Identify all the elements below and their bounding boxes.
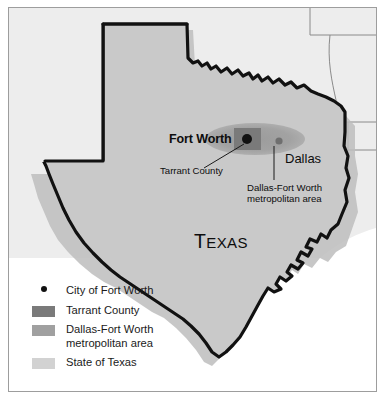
- panhandle-west-neighbor: [9, 8, 103, 162]
- dfw-metro-annotation-line2: metropolitan area: [247, 193, 322, 204]
- dallas-city-dot: [275, 137, 282, 144]
- legend-item-tarrant-county: Tarrant County: [30, 304, 210, 317]
- legend-item-city-of-fort-worth: City of Fort Worth: [30, 284, 210, 297]
- city-dot-icon: [41, 286, 47, 292]
- legend-key-city-dot: [30, 284, 57, 292]
- legend-item-state-of-texas: State of Texas: [30, 356, 210, 369]
- legend-label-dfw-metropolitan-area: Dallas-Fort Worthmetropolitan area: [57, 323, 153, 349]
- legend-key-tarrant-county: [30, 304, 57, 317]
- legend-item-dfw-metropolitan-area: Dallas-Fort Worthmetropolitan area: [30, 323, 210, 349]
- texas-label-first-letter: T: [194, 230, 206, 252]
- dfw-metro-annotation: Dallas-Fort Worthmetropolitan area: [247, 183, 322, 204]
- legend-key-state-of-texas: [30, 356, 57, 369]
- dallas-label: Dallas: [285, 152, 321, 167]
- legend-label-tarrant-county: Tarrant County: [57, 304, 139, 317]
- map-legend: City of Fort Worth Tarrant County Dallas…: [30, 284, 210, 374]
- fort-worth-label: Fort Worth: [169, 132, 232, 146]
- dfw-metro-swatch-icon: [32, 325, 55, 336]
- legend-key-dfw-metro: [30, 323, 57, 336]
- dfw-metro-annotation-line1: Dallas-Fort Worth: [247, 182, 322, 193]
- legend-label-state-of-texas: State of Texas: [57, 356, 137, 369]
- texas-map-figure: Fort Worth Dallas TEXAS Tarrant County D…: [0, 0, 385, 400]
- texas-label-rest: EXAS: [206, 234, 248, 251]
- tarrant-county-swatch-icon: [32, 306, 55, 317]
- tarrant-county-annotation: Tarrant County: [160, 166, 223, 177]
- legend-label-city-of-fort-worth: City of Fort Worth: [57, 284, 153, 297]
- texas-state-label: TEXAS: [194, 231, 248, 253]
- fort-worth-city-dot: [242, 134, 252, 144]
- state-of-texas-swatch-icon: [32, 358, 55, 369]
